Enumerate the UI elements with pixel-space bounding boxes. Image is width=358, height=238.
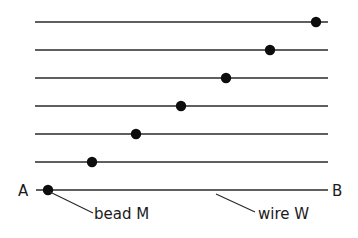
bead-6	[87, 157, 97, 167]
bead-on-wire-diagram: A B bead M wire W	[0, 0, 358, 238]
end-a-label: A	[18, 182, 29, 200]
end-b-label: B	[332, 182, 342, 200]
wire-leader-line	[216, 194, 255, 212]
bead-4	[176, 101, 186, 111]
bead-3	[221, 73, 231, 83]
bead-1	[311, 17, 321, 27]
bead-leader-line	[50, 192, 93, 213]
bead-7	[43, 185, 53, 195]
bead-5	[131, 129, 141, 139]
bead-m-label: bead M	[94, 205, 149, 223]
wire-sequence	[35, 17, 328, 195]
bead-2	[265, 45, 275, 55]
wire-w-label: wire W	[258, 205, 309, 223]
